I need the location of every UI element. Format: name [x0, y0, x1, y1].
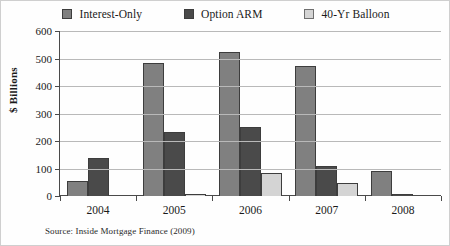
gridline	[60, 114, 441, 115]
legend-item[interactable]: 40-Yr Balloon	[304, 8, 389, 20]
y-tick-label: 600	[36, 25, 53, 37]
bar[interactable]	[240, 127, 261, 196]
bar[interactable]	[88, 158, 109, 197]
chart-legend: Interest-OnlyOption ARM40-Yr Balloon	[1, 8, 450, 20]
legend-label: 40-Yr Balloon	[321, 8, 389, 20]
legend-swatch-icon	[62, 9, 72, 19]
legend-swatch-icon	[304, 9, 314, 19]
bar[interactable]	[143, 63, 164, 196]
x-tick-label: 2008	[365, 204, 441, 216]
y-tick-label: 100	[36, 163, 53, 175]
x-tick-label: 2007	[289, 204, 365, 216]
legend-swatch-icon	[184, 9, 194, 19]
y-tick-label: 300	[36, 108, 53, 120]
bar[interactable]	[67, 181, 88, 196]
x-tick-label: 2004	[60, 204, 136, 216]
gridline	[60, 59, 441, 60]
legend-item[interactable]: Interest-Only	[62, 8, 142, 20]
y-tick-label: 500	[36, 53, 53, 65]
y-axis-title: $ Billions	[7, 67, 19, 113]
gridline	[60, 141, 441, 142]
y-tick-mark	[55, 86, 60, 87]
bar[interactable]	[337, 183, 358, 196]
legend-label: Interest-Only	[79, 8, 142, 20]
y-tick-mark	[55, 31, 60, 32]
y-tick-mark	[55, 114, 60, 115]
plot-frame: 20042005200620072008 6005004003002001000	[59, 31, 441, 196]
gridline	[60, 86, 441, 87]
bar[interactable]	[219, 52, 240, 196]
legend-item[interactable]: Option ARM	[184, 8, 262, 20]
bar[interactable]	[185, 194, 206, 196]
legend-label: Option ARM	[201, 8, 262, 20]
source-note: Source: Inside Mortgage Finance (2009)	[45, 226, 195, 236]
y-tick-label: 400	[36, 80, 53, 92]
x-tick-mark	[212, 196, 213, 201]
y-tick-mark	[55, 141, 60, 142]
y-tick-label: 200	[36, 135, 53, 147]
bar[interactable]	[261, 173, 282, 196]
bar[interactable]	[371, 171, 392, 196]
y-tick-mark	[55, 59, 60, 60]
x-tick-mark	[136, 196, 137, 201]
x-tick-mark	[365, 196, 366, 201]
x-tick-label: 2006	[212, 204, 288, 216]
x-tick-mark	[60, 196, 61, 201]
y-tick-mark	[55, 169, 60, 170]
x-tick-label: 2005	[136, 204, 212, 216]
chart-container: Interest-OnlyOption ARM40-Yr Balloon $ B…	[0, 0, 450, 246]
y-tick-label: 0	[47, 190, 53, 202]
plot-area: 20042005200620072008 6005004003002001000	[59, 31, 441, 196]
gridline	[60, 31, 441, 32]
bar[interactable]	[392, 194, 413, 196]
x-tick-mark	[441, 196, 442, 201]
bar[interactable]	[316, 166, 337, 196]
x-tick-mark	[289, 196, 290, 201]
gridline	[60, 169, 441, 170]
